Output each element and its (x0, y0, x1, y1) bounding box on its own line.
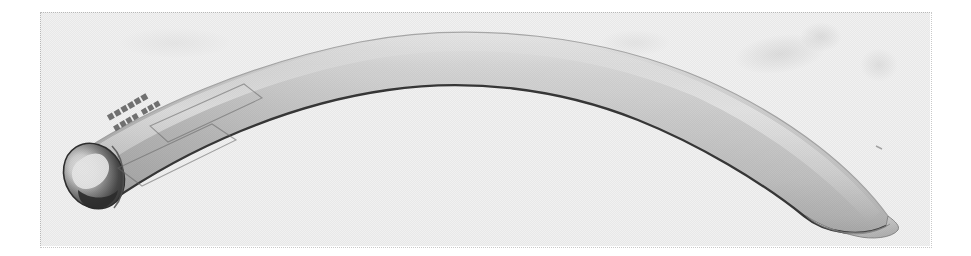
tube-right-end-tick (876, 146, 882, 149)
tube-body-group (84, 32, 888, 238)
tube-illustration (0, 0, 971, 256)
figure-root: ■■■■■■ ■■■■ ■■■ (0, 0, 971, 256)
